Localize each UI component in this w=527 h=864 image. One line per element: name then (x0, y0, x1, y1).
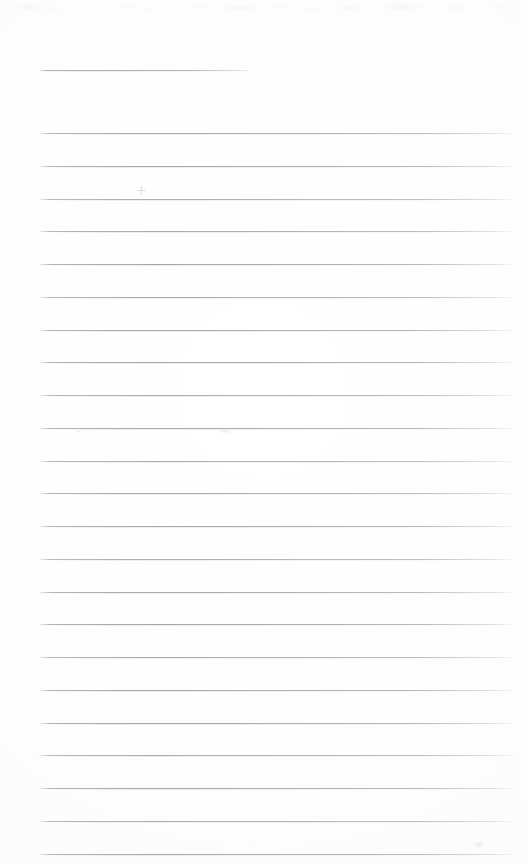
body-writing-area (39, 104, 514, 856)
scanned-page (0, 0, 527, 864)
title-rule-line (39, 70, 253, 71)
title-writing-area (39, 48, 253, 68)
